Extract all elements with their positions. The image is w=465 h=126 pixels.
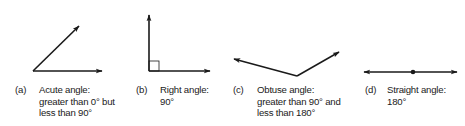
caption-line: Obtuse angle: <box>257 84 341 96</box>
caption-line: less than 180° <box>257 107 341 119</box>
caption-line: 90° <box>160 96 209 108</box>
caption-label: (d) <box>365 84 376 96</box>
right-angle-drawing <box>149 15 210 71</box>
obtuse-left-ray <box>234 59 297 76</box>
caption-line: Straight angle: <box>387 84 446 96</box>
acute-diagonal-ray <box>33 26 79 71</box>
caption-line: 180° <box>387 96 446 108</box>
caption-label: (a) <box>15 84 26 96</box>
caption-label: (b) <box>136 84 147 96</box>
obtuse-right-ray <box>297 52 339 76</box>
caption-line: Acute angle: <box>39 84 115 96</box>
straight-angle-drawing <box>364 70 457 75</box>
right-angle-square-icon <box>149 61 159 71</box>
obtuse-angle-drawing <box>234 52 339 76</box>
caption-line: greater than 0° but <box>39 96 115 108</box>
acute-angle-drawing <box>33 26 102 71</box>
vertex-dot-icon <box>411 70 416 75</box>
caption-label: (c) <box>233 84 244 96</box>
caption-line: less than 90° <box>39 107 115 119</box>
caption-line: Right angle: <box>160 84 209 96</box>
caption-line: greater than 90° and <box>257 96 341 108</box>
